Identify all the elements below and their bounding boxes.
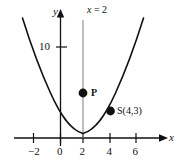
x-axis-label: x bbox=[169, 132, 174, 143]
reference-line-label-value: = 2 bbox=[91, 4, 107, 15]
x-tick-label-minus-2: −2 bbox=[28, 146, 40, 157]
graph-canvas bbox=[0, 0, 178, 163]
x-tick-label-2: 2 bbox=[80, 146, 86, 157]
reference-line-label: x = 2 bbox=[87, 5, 107, 15]
y-tick-label-10: 10 bbox=[39, 41, 50, 52]
x-axis bbox=[14, 134, 168, 142]
point-marker-s bbox=[106, 107, 115, 116]
graph-figure: y x 10 −2 0 2 4 6 x = 2 P S(4,3) bbox=[0, 0, 178, 163]
y-axis-label: y bbox=[53, 6, 58, 17]
x-tick-label-0: 0 bbox=[57, 146, 63, 157]
point-label-s: S(4,3) bbox=[117, 106, 142, 116]
y-axis bbox=[57, 9, 64, 146]
point-marker-p bbox=[79, 89, 88, 98]
x-tick-label-6: 6 bbox=[133, 146, 139, 157]
point-label-p: P bbox=[91, 88, 97, 98]
x-tick-label-4: 4 bbox=[107, 146, 113, 157]
